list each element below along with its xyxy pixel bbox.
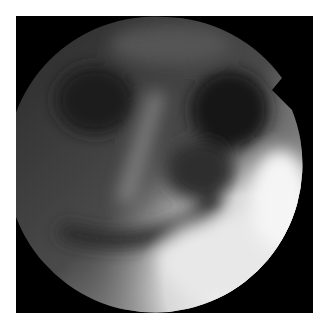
endoscopic-image xyxy=(0,0,327,326)
field-of-view xyxy=(16,16,313,313)
